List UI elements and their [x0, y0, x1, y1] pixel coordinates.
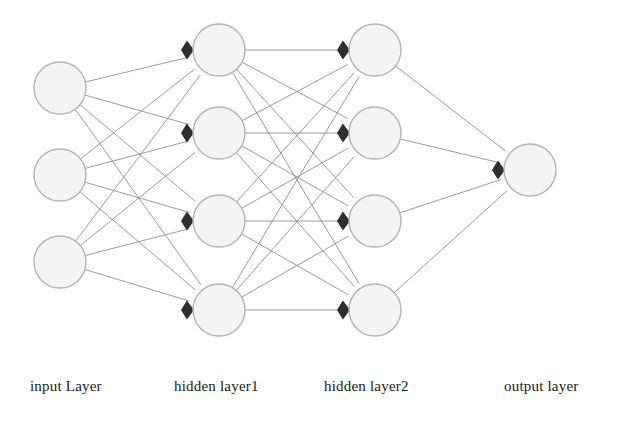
layer-label-input: input Layer — [30, 378, 102, 395]
layer-label-output: output layer — [504, 378, 578, 395]
arrowhead-icon-hidden1-4 — [181, 301, 194, 320]
network-graphic — [0, 0, 643, 423]
edge-hidden2-2-to-output-1 — [400, 139, 500, 163]
edge-input-3-to-hidden1-4 — [85, 270, 189, 302]
edge-hidden1-1-to-hidden2-2 — [242, 62, 348, 118]
node-hidden2-3 — [349, 195, 401, 247]
arrowhead-icon-hidden2-2 — [337, 124, 350, 143]
edge-hidden2-4-to-output-1 — [394, 191, 507, 293]
edge-hidden1-3-to-hidden2-4 — [242, 234, 348, 295]
edge-hidden2-3-to-output-1 — [400, 180, 501, 213]
edge-hidden1-1-to-hidden2-3 — [237, 69, 355, 198]
layer-label-hidden2: hidden layer2 — [324, 378, 409, 395]
node-hidden2-1 — [349, 24, 401, 76]
arrowhead-icon-hidden2-4 — [337, 301, 350, 320]
edges-group — [75, 50, 507, 310]
node-hidden2-2 — [349, 107, 401, 159]
node-hidden1-2 — [193, 107, 245, 159]
node-input-2 — [34, 149, 86, 201]
node-hidden1-1 — [193, 24, 245, 76]
arrowhead-icon-hidden2-1 — [337, 41, 350, 60]
neural-network-diagram: input Layer hidden layer1 hidden layer2 … — [0, 0, 643, 423]
edge-hidden1-2-to-hidden2-3 — [242, 146, 348, 206]
arrowhead-icon-output-1 — [492, 161, 505, 180]
node-hidden1-4 — [193, 284, 245, 336]
arrowhead-icon-hidden1-1 — [181, 41, 194, 60]
node-output-1 — [504, 144, 556, 196]
node-input-3 — [34, 236, 86, 288]
node-hidden1-3 — [193, 195, 245, 247]
edge-input-3-to-hidden1-1 — [76, 75, 201, 241]
arrowhead-icon-hidden1-2 — [181, 124, 194, 143]
node-input-1 — [34, 62, 86, 114]
edge-input-2-to-hidden1-4 — [80, 192, 196, 290]
arrowhead-icon-hidden1-3 — [181, 212, 194, 231]
node-hidden2-4 — [349, 284, 401, 336]
layer-label-hidden1: hidden layer1 — [174, 378, 259, 395]
edge-hidden2-1-to-output-1 — [396, 66, 506, 151]
nodes-group — [34, 24, 556, 336]
edge-input-1-to-hidden1-1 — [85, 57, 189, 82]
arrowhead-icon-hidden2-3 — [337, 212, 350, 231]
edge-input-2-to-hidden1-1 — [80, 69, 194, 159]
edge-input-3-to-hidden1-3 — [85, 229, 189, 256]
edge-input-1-to-hidden1-3 — [80, 105, 195, 201]
edge-input-1-to-hidden1-4 — [75, 109, 201, 285]
